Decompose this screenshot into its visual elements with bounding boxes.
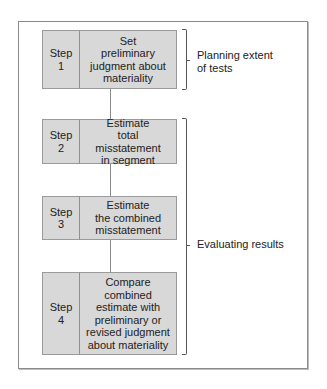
step-4-description: Compare combined estimate with prelimina… [80,273,176,354]
step-1-description: Set preliminary judgment about materiali… [80,31,176,88]
connector-2-3 [110,164,111,196]
step-2-box: Step 2 Estimate total misstatement in se… [42,119,177,164]
bracket-tick [187,60,190,61]
step-1-box: Step 1 Set preliminary judgment about ma… [42,30,177,89]
planning-bracket [182,29,187,90]
step-4-label: Step 4 [43,273,80,354]
step-4-box: Step 4 Compare combined estimate with pr… [42,272,177,355]
bracket-tick [187,245,190,246]
evaluating-group-label: Evaluating results [197,238,284,251]
step-2-label: Step 2 [43,120,80,163]
connector-3-4 [110,240,111,272]
step-3-label: Step 3 [43,197,80,239]
planning-group-label: Planning extent of tests [197,49,273,75]
connector-1-2 [110,89,111,119]
evaluating-bracket [182,118,187,355]
step-1-label: Step 1 [43,31,80,88]
step-3-box: Step 3 Estimate the combined misstatemen… [42,196,177,240]
step-2-description: Estimate total misstatement in segment [80,120,176,163]
step-3-description: Estimate the combined misstatement [80,197,176,239]
